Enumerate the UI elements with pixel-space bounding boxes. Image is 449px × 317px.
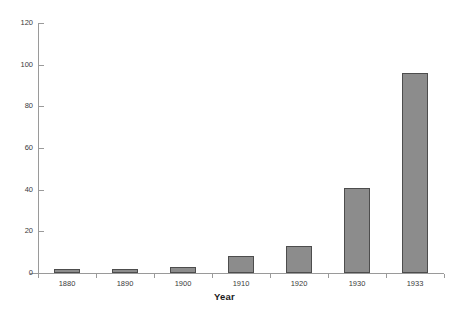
x-axis-title: Year [0, 291, 449, 302]
x-axis-tick-label: 1930 [328, 280, 386, 288]
x-axis-tick-label: 1920 [270, 280, 328, 288]
y-axis-tick [39, 65, 44, 66]
x-axis-tick [270, 274, 271, 278]
bar [228, 256, 254, 273]
y-axis-tick-label: 80 [3, 102, 33, 110]
x-axis-line [30, 273, 444, 274]
y-axis-tick [39, 273, 44, 274]
y-axis-tick [39, 148, 44, 149]
x-axis-tick [328, 274, 329, 278]
y-axis-tick [39, 231, 44, 232]
y-axis-tick [39, 23, 44, 24]
y-axis-tick-label: 60 [3, 144, 33, 152]
x-axis-tick-label: 1933 [386, 280, 444, 288]
y-axis-tick-label: 120 [3, 19, 33, 27]
x-axis-tick-label: 1910 [212, 280, 270, 288]
bar [286, 246, 312, 273]
x-axis-tick [96, 274, 97, 278]
bar [54, 269, 80, 273]
x-axis-tick [386, 274, 387, 278]
bar [344, 188, 370, 273]
bar [112, 269, 138, 273]
x-axis-tick [154, 274, 155, 278]
y-axis-tick-label: 100 [3, 61, 33, 69]
x-axis-tick [444, 274, 445, 278]
x-axis-tick [212, 274, 213, 278]
y-axis-tick-label: 20 [3, 227, 33, 235]
y-axis-tick-label: 40 [3, 186, 33, 194]
y-axis-tick [39, 106, 44, 107]
x-axis-tick-label: 1890 [96, 280, 154, 288]
bar [170, 267, 196, 273]
bar [402, 73, 428, 273]
y-axis-tick-label: 0 [3, 269, 33, 277]
y-axis-tick [39, 190, 44, 191]
bar-chart: 020406080100120 188018901900191019201930… [0, 0, 449, 317]
x-axis-tick-label: 1900 [154, 280, 212, 288]
x-axis-tick-label: 1880 [38, 280, 96, 288]
x-axis-tick [38, 274, 39, 278]
